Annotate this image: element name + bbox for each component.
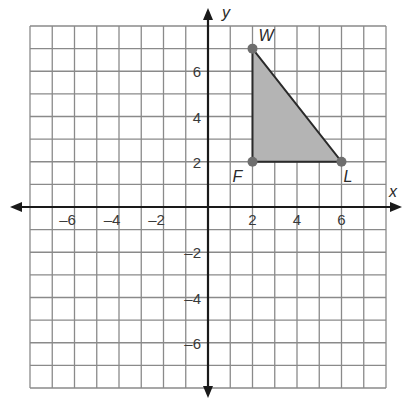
vertex-f-dot [248,157,258,167]
x-tick-label: –4 [104,211,121,228]
axes [10,8,402,398]
y-tick-label: –6 [184,335,201,352]
y-tick-label: 6 [193,63,201,80]
coordinate-plane: –6–4–2246642–2–4–6 WFL y x [0,0,407,403]
x-axis-right-arrow-icon [390,202,402,212]
y-tick-label: –2 [184,244,201,261]
y-tick-label: 4 [193,109,201,126]
vertex-f-label: F [233,168,244,185]
x-axis-left-arrow-icon [10,202,22,212]
x-tick-label: 4 [293,211,301,228]
vertex-l-label: L [344,168,353,185]
x-tick-label: –6 [59,211,76,228]
x-tick-label: 6 [337,211,345,228]
y-axis-up-arrow-icon [203,8,213,20]
x-axis-label: x [388,183,398,200]
y-tick-label: –4 [184,290,201,307]
x-tick-label: –2 [148,211,165,228]
vertex-w-dot [248,44,258,54]
x-tick-label: 2 [248,211,256,228]
y-axis-down-arrow-icon [203,386,213,398]
y-tick-label: 2 [193,154,201,171]
vertex-w-label: W [259,27,276,44]
y-axis-label: y [221,4,231,21]
vertex-l-dot [337,157,347,167]
